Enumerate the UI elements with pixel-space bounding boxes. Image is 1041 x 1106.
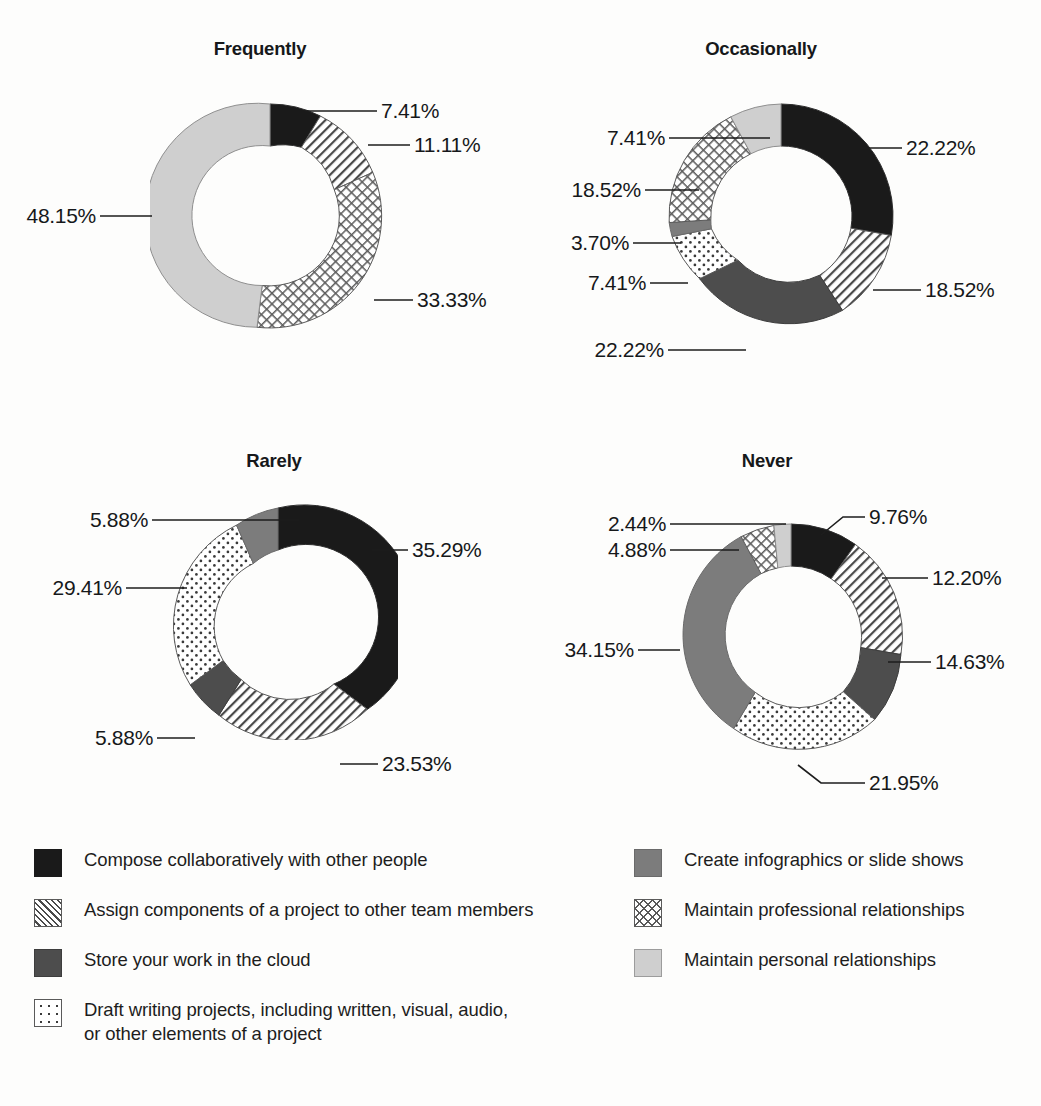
legend-label: Draft writing projects, including writte…: [84, 998, 508, 1046]
legend-label: Compose collaboratively with other peopl…: [84, 848, 427, 872]
value-label-frequently-compose: 7.41%: [381, 99, 439, 123]
panel-never: Never: [521, 450, 1041, 820]
value-label-occasionally-cloud: 22.22%: [595, 338, 664, 362]
value-label-rarely-assign: 23.53%: [382, 752, 451, 776]
legend-label: Create infographics or slide shows: [684, 848, 963, 872]
solid-black-swatch-icon: [34, 849, 62, 877]
value-label-occasionally-assign: 18.52%: [925, 278, 994, 302]
value-label-rarely-cloud: 5.88%: [95, 726, 153, 750]
legend-item-create-infographics[interactable]: Create infographics or slide shows: [634, 848, 963, 877]
value-label-never-professional: 4.88%: [608, 538, 666, 562]
legend-label: Maintain professional relationships: [684, 898, 964, 922]
legend-label: Maintain personal relationships: [684, 948, 936, 972]
diagonal-hatch-swatch-icon: [34, 899, 62, 927]
value-label-frequently-professional: 33.33%: [417, 288, 486, 312]
legend-item-maintain-professional[interactable]: Maintain professional relationships: [634, 898, 964, 927]
panel-frequently: Frequently 7.41% 11.11% 33.33% 48: [0, 38, 520, 398]
panel-occasionally: Occasionally: [521, 38, 1041, 418]
legend-label: Store your work in the cloud: [84, 948, 311, 972]
chart-legend: Compose collaboratively with other peopl…: [0, 828, 1041, 1068]
value-label-never-cloud: 14.63%: [935, 650, 1004, 674]
dotted-swatch-icon: [34, 999, 62, 1027]
value-label-frequently-assign: 11.11%: [414, 133, 480, 157]
value-label-never-compose: 9.76%: [869, 505, 927, 529]
legend-item-compose-collaboratively[interactable]: Compose collaboratively with other peopl…: [34, 848, 427, 877]
panel-rarely: Rarely 5.88% 35.29% 23.53%: [0, 450, 520, 820]
leader-lines-never: [521, 450, 1041, 820]
value-label-never-draft: 21.95%: [869, 771, 938, 795]
value-label-rarely-draft: 29.41%: [53, 576, 122, 600]
value-label-occasionally-personal: 7.41%: [607, 126, 665, 150]
legend-item-draft-writing[interactable]: Draft writing projects, including writte…: [34, 998, 508, 1046]
dark-gray-swatch-icon: [34, 949, 62, 977]
legend-label: Assign components of a project to other …: [84, 898, 533, 922]
value-label-rarely-compose: 35.29%: [412, 538, 481, 562]
value-label-frequently-personal: 48.15%: [27, 204, 96, 228]
value-label-rarely-infographics: 5.88%: [90, 508, 148, 532]
value-label-occasionally-infographics: 3.70%: [571, 231, 629, 255]
value-label-occasionally-compose: 22.22%: [906, 136, 975, 160]
value-label-occasionally-draft: 7.41%: [588, 271, 646, 295]
light-gray-swatch-icon: [634, 949, 662, 977]
legend-item-store-cloud[interactable]: Store your work in the cloud: [34, 948, 311, 977]
value-label-never-assign: 12.20%: [932, 566, 1001, 590]
value-label-occasionally-professional: 18.52%: [572, 178, 641, 202]
legend-item-maintain-personal[interactable]: Maintain personal relationships: [634, 948, 936, 977]
crosshatch-swatch-icon: [634, 899, 662, 927]
value-label-never-personal: 2.44%: [608, 512, 666, 536]
mid-gray-swatch-icon: [634, 849, 662, 877]
value-label-never-infographics: 34.15%: [565, 638, 634, 662]
legend-item-assign-components[interactable]: Assign components of a project to other …: [34, 898, 533, 927]
donut-chart-figure: Frequently 7.41% 11.11% 33.33% 48: [0, 0, 1041, 1106]
